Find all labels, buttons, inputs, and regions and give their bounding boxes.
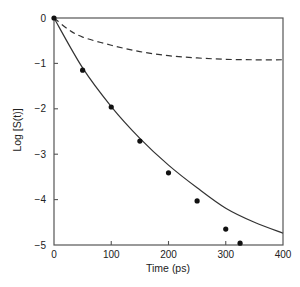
plot-frame (54, 18, 283, 245)
data-point (109, 104, 114, 109)
solid-curve (54, 18, 283, 233)
x-tick-label: 400 (275, 249, 292, 260)
y-tick-label: −2 (35, 103, 47, 114)
x-axis-label: Time (ps) (146, 262, 190, 274)
data-point (166, 170, 171, 175)
y-tick-label: −5 (35, 240, 47, 251)
data-point (195, 198, 200, 203)
x-axis-ticks: 0100200300400 (51, 241, 292, 260)
chart: 0−1−2−3−4−5 0100200300400 Time (ps) Log … (0, 0, 300, 287)
x-tick-label: 300 (217, 249, 234, 260)
y-tick-label: −4 (35, 194, 47, 205)
x-tick-label: 200 (160, 249, 177, 260)
data-point (137, 138, 142, 143)
data-point (223, 227, 228, 232)
data-point (51, 15, 56, 20)
x-tick-label: 0 (51, 249, 57, 260)
y-tick-label: −1 (35, 58, 47, 69)
data-point (237, 241, 242, 246)
y-tick-label: −3 (35, 149, 47, 160)
dashed-curve (54, 18, 283, 60)
y-tick-label: 0 (40, 13, 46, 24)
data-point (80, 68, 85, 73)
x-tick-label: 100 (103, 249, 120, 260)
data-points (51, 15, 242, 245)
y-axis-label: Log [S(t)] (11, 108, 23, 151)
series-layer (51, 15, 283, 245)
